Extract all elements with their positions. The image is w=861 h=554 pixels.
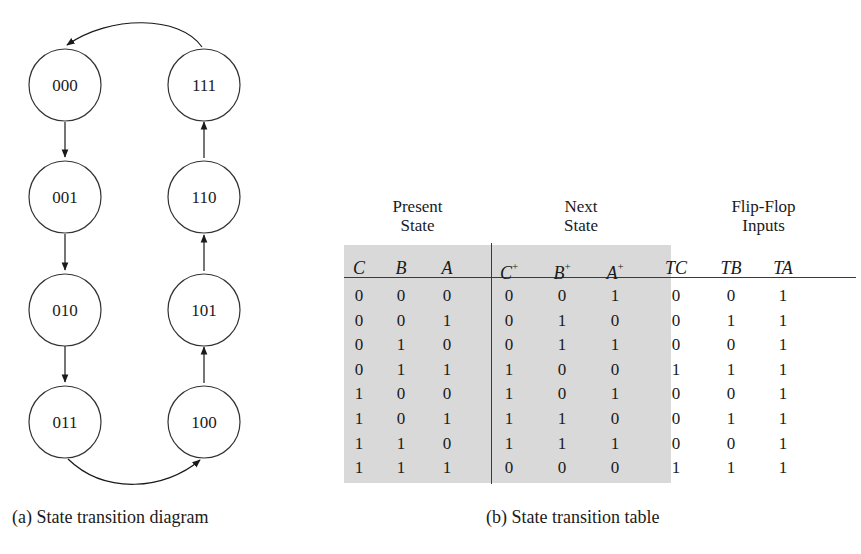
svg-text:110: 110 [192, 188, 217, 207]
table-cell: 0 [386, 409, 416, 429]
column-header-label: TB [720, 258, 741, 278]
column-header: A [427, 259, 467, 277]
table-cell: 0 [716, 434, 746, 454]
state-transition-diagram: 000 001 010 011 111 110 101 100 [0, 0, 300, 554]
table-cell: 1 [547, 335, 577, 355]
table-cell: 0 [344, 311, 374, 331]
svg-text:001: 001 [52, 188, 78, 207]
column-header-label: B [396, 258, 407, 278]
table-cell: 0 [344, 360, 374, 380]
table-cell: 0 [600, 409, 630, 429]
column-header: B [381, 259, 421, 277]
table-cell: 0 [386, 311, 416, 331]
group-header-line: State [491, 216, 671, 235]
table-cell: 1 [386, 458, 416, 478]
table-cell: 0 [547, 384, 577, 404]
table-cell: 0 [547, 360, 577, 380]
table-cell: 1 [494, 384, 524, 404]
table-cell: 0 [661, 409, 691, 429]
table-cell: 0 [600, 311, 630, 331]
state-node-101: 101 [168, 274, 240, 346]
table-cell: 1 [768, 360, 798, 380]
table-cell: 1 [386, 360, 416, 380]
table-cell: 0 [600, 458, 630, 478]
group-header-present-state: Present State [344, 197, 491, 235]
column-header-label: B [553, 263, 564, 283]
state-node-100: 100 [168, 386, 240, 458]
column-header: B+ [542, 259, 582, 282]
table-cell: 1 [494, 409, 524, 429]
column-header-label: A [606, 263, 617, 283]
column-header-label: C [500, 263, 512, 283]
svg-text:101: 101 [191, 301, 217, 320]
table-cell: 0 [432, 335, 462, 355]
table-cell: 1 [600, 384, 630, 404]
column-header-label: C [353, 258, 365, 278]
column-header: TC [656, 259, 696, 277]
next-state-superscript: + [617, 260, 623, 272]
table-cell: 0 [716, 286, 746, 306]
table-cell: 0 [344, 335, 374, 355]
table-cell: 1 [600, 434, 630, 454]
state-node-000: 000 [29, 49, 101, 121]
column-header-label: TA [773, 258, 793, 278]
table-cell: 1 [661, 458, 691, 478]
table-cell: 1 [768, 434, 798, 454]
table-cell: 1 [600, 335, 630, 355]
svg-text:000: 000 [52, 76, 78, 95]
table-cell: 0 [661, 335, 691, 355]
table-cell: 1 [716, 409, 746, 429]
table-cell: 0 [661, 311, 691, 331]
table-cell: 1 [432, 409, 462, 429]
group-header-flip-flop-inputs: Flip-Flop Inputs [671, 197, 856, 235]
table-cell: 1 [768, 335, 798, 355]
state-node-011: 011 [29, 386, 101, 458]
table-cell: 1 [344, 384, 374, 404]
table-cell: 1 [716, 360, 746, 380]
table-cell: 1 [661, 360, 691, 380]
table-cell: 1 [768, 409, 798, 429]
table-cell: 1 [768, 458, 798, 478]
table-cell: 1 [344, 409, 374, 429]
arrow-011-to-100 [68, 459, 200, 484]
svg-text:100: 100 [191, 413, 217, 432]
column-header: TB [711, 259, 751, 277]
state-node-010: 010 [29, 274, 101, 346]
table-cell: 0 [661, 434, 691, 454]
table-cell: 0 [661, 384, 691, 404]
column-header: TA [763, 259, 803, 277]
next-state-superscript: + [564, 260, 570, 272]
next-state-superscript: + [512, 260, 518, 272]
table-cell: 1 [768, 311, 798, 331]
table-cell: 1 [547, 409, 577, 429]
group-header-line: Flip-Flop [671, 197, 856, 216]
table-cell: 0 [494, 286, 524, 306]
state-node-110: 110 [168, 161, 240, 233]
table-cell: 0 [494, 311, 524, 331]
table-cell: 1 [716, 458, 746, 478]
table-cell: 1 [494, 360, 524, 380]
column-header: C+ [489, 259, 529, 282]
column-header-label: A [442, 258, 453, 278]
table-cell: 0 [386, 384, 416, 404]
table-cell: 1 [432, 311, 462, 331]
column-header: C [339, 259, 379, 277]
group-header-line: Present [344, 197, 491, 216]
table-cell: 1 [768, 286, 798, 306]
svg-text:011: 011 [53, 413, 78, 432]
state-node-001: 001 [29, 161, 101, 233]
table-cell: 1 [386, 335, 416, 355]
table-cell: 1 [344, 434, 374, 454]
table-cell: 0 [494, 335, 524, 355]
group-header-line: Inputs [671, 216, 856, 235]
table-cell: 1 [386, 434, 416, 454]
diagram-caption: (a) State transition diagram [12, 507, 208, 528]
table-cell: 1 [494, 434, 524, 454]
table-cell: 1 [344, 458, 374, 478]
table-cell: 0 [344, 286, 374, 306]
table-cell: 1 [547, 434, 577, 454]
table-cell: 1 [547, 311, 577, 331]
table-cell: 0 [432, 384, 462, 404]
group-header-line: Next [491, 197, 671, 216]
table-cell: 0 [547, 458, 577, 478]
